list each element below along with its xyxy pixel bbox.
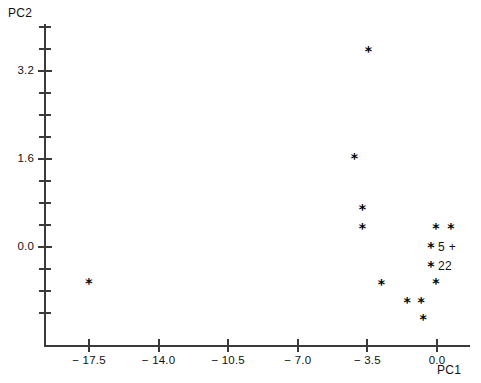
data-point-marker: * <box>365 44 372 58</box>
x-axis-tick <box>366 339 368 352</box>
data-point-marker: * <box>403 295 410 309</box>
y-axis-minor-tick <box>39 290 51 292</box>
x-axis-tick <box>88 339 90 352</box>
y-axis-minor-tick <box>39 136 51 138</box>
y-axis-minor-tick <box>39 202 51 204</box>
y-axis-tick-label: 0.0 <box>0 240 34 252</box>
x-axis-tick <box>436 339 438 352</box>
x-axis-tick-label: − 10.5 <box>198 354 258 366</box>
x-axis-tick-label: − 7.0 <box>268 354 328 366</box>
data-point-label: 5 + <box>438 241 456 253</box>
y-axis-tick <box>38 70 52 72</box>
data-point-marker: * <box>432 276 439 290</box>
data-point-marker: * <box>427 259 434 273</box>
data-point-marker: * <box>417 295 424 309</box>
x-axis-tick <box>227 339 229 352</box>
y-axis-tick <box>38 246 52 248</box>
data-point-marker: * <box>85 276 92 290</box>
y-axis-tick-label: 1.6 <box>0 152 34 164</box>
y-axis-minor-tick <box>39 92 51 94</box>
data-point-marker: * <box>359 221 366 235</box>
x-axis-tick <box>158 339 160 352</box>
data-point-label: 22 <box>438 260 452 272</box>
y-axis-minor-tick <box>39 26 51 28</box>
data-point-marker: * <box>432 221 439 235</box>
y-axis-minor-tick <box>39 268 51 270</box>
x-axis-tick-label: − 14.0 <box>129 354 189 366</box>
x-axis-tick <box>297 339 299 352</box>
y-axis-title: PC2 <box>8 6 32 20</box>
data-point-marker: * <box>419 312 426 326</box>
y-axis-minor-tick <box>39 224 51 226</box>
y-axis-minor-tick <box>39 312 51 314</box>
data-point-marker: * <box>351 151 358 165</box>
x-axis-line <box>44 345 470 347</box>
y-axis-tick-label: 3.2 <box>0 64 34 76</box>
y-axis-minor-tick <box>39 114 51 116</box>
x-axis-tick-label: − 17.5 <box>59 354 119 366</box>
data-point-marker: * <box>447 221 454 235</box>
y-axis-minor-tick <box>39 180 51 182</box>
data-point-marker: * <box>378 277 385 291</box>
y-axis-minor-tick <box>39 48 51 50</box>
scatter-plot-figure: PC2 PC1 3.21.60.0− 17.5− 14.0− 10.5− 7.0… <box>0 0 481 383</box>
data-point-marker: * <box>359 202 366 216</box>
x-axis-tick-label: 0.0 <box>407 354 467 366</box>
y-axis-line <box>44 24 46 347</box>
data-point-marker: * <box>427 240 434 254</box>
y-axis-tick <box>38 158 52 160</box>
x-axis-tick-label: − 3.5 <box>337 354 397 366</box>
